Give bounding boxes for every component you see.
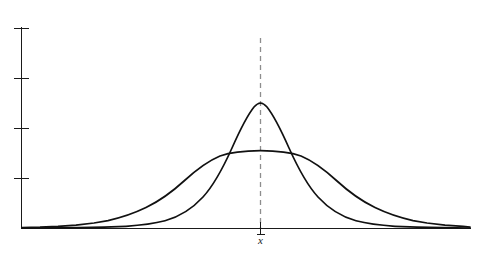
narrow-distribution-curve — [22, 103, 470, 228]
distribution-plot: x — [0, 0, 490, 253]
mean-label-x: x — [257, 234, 263, 246]
sampling-distribution-figure: x — [0, 0, 490, 253]
wide-distribution-curve — [22, 151, 470, 228]
